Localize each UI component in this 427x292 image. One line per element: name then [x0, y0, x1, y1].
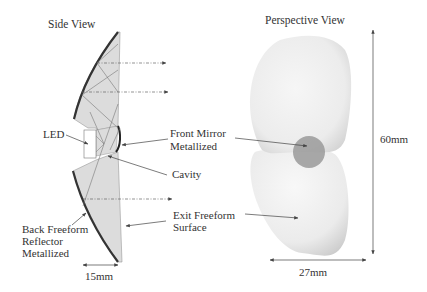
- front-mirror-label-2: Metallized: [170, 140, 218, 152]
- side-dimension-label: 15mm: [85, 270, 114, 282]
- side-view-title: Side View: [48, 18, 96, 30]
- front-mirror-label-1: Front Mirror: [170, 127, 226, 139]
- perspective-view-title: Perspective View: [265, 14, 346, 27]
- led-package: [84, 130, 96, 158]
- height-dimension-label: 60mm: [380, 133, 409, 145]
- front-mirror-spot: [293, 136, 325, 168]
- width-dimension-label: 27mm: [299, 266, 328, 278]
- back-reflector-label-2: Reflector: [22, 235, 63, 247]
- back-reflector-label-3: Metallized: [22, 247, 70, 259]
- perspective-lens: [250, 36, 351, 256]
- back-reflector-label-1: Back Freeform: [22, 223, 89, 235]
- exit-surface-label-2: Surface: [173, 221, 207, 233]
- optics-diagram: Side View: [0, 0, 427, 292]
- cavity-label: Cavity: [172, 168, 202, 180]
- led-label: LED: [43, 128, 64, 140]
- exit-surface-label-1: Exit Freeform: [173, 209, 235, 221]
